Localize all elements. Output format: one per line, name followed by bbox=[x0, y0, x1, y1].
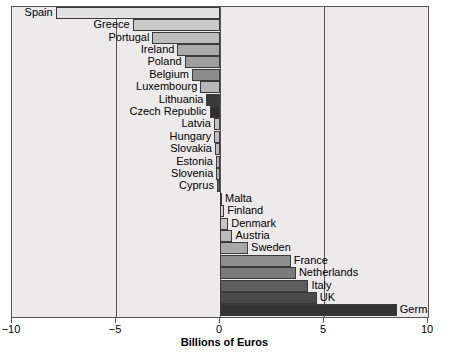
bar-slovenia[interactable] bbox=[216, 168, 220, 180]
bar-sweden[interactable] bbox=[220, 242, 248, 254]
bar-uk[interactable] bbox=[220, 292, 317, 304]
bar-austria[interactable] bbox=[220, 230, 232, 242]
bar-france[interactable] bbox=[220, 255, 291, 267]
bar-label-germany: Germany bbox=[400, 302, 429, 317]
bar-denmark[interactable] bbox=[220, 218, 228, 230]
tick-label: −10 bbox=[2, 323, 21, 335]
bar-poland[interactable] bbox=[185, 56, 220, 68]
bar-estonia[interactable] bbox=[216, 156, 220, 168]
tick-label: 0 bbox=[216, 323, 222, 335]
tick-label: 10 bbox=[421, 323, 433, 335]
x-axis: −10−50510 bbox=[11, 318, 429, 324]
plot-area: SpainGreecePortugalIrelandPolandBelgiumL… bbox=[11, 6, 429, 318]
bar-chart: SpainGreecePortugalIrelandPolandBelgiumL… bbox=[0, 0, 449, 358]
bar-lithuania[interactable] bbox=[206, 94, 220, 106]
bar-netherlands[interactable] bbox=[220, 267, 296, 279]
tick-label: 5 bbox=[320, 323, 326, 335]
bar-germany[interactable] bbox=[220, 304, 397, 316]
bar-finland[interactable] bbox=[220, 205, 224, 217]
bar-latvia[interactable] bbox=[214, 118, 220, 130]
tick-label: −5 bbox=[109, 323, 122, 335]
bar-czech-republic[interactable] bbox=[210, 106, 220, 118]
bar-cyprus[interactable] bbox=[217, 180, 220, 192]
x-axis-title: Billions of Euros bbox=[0, 336, 449, 348]
bar-italy[interactable] bbox=[220, 280, 308, 292]
bar-malta[interactable] bbox=[220, 193, 222, 205]
bar-row: Germany bbox=[12, 303, 428, 318]
bar-hungary[interactable] bbox=[214, 131, 220, 143]
bars-container: SpainGreecePortugalIrelandPolandBelgiumL… bbox=[12, 7, 428, 317]
bar-ireland[interactable] bbox=[177, 44, 220, 56]
bar-spain[interactable] bbox=[56, 7, 220, 19]
bar-slovakia[interactable] bbox=[215, 143, 220, 155]
